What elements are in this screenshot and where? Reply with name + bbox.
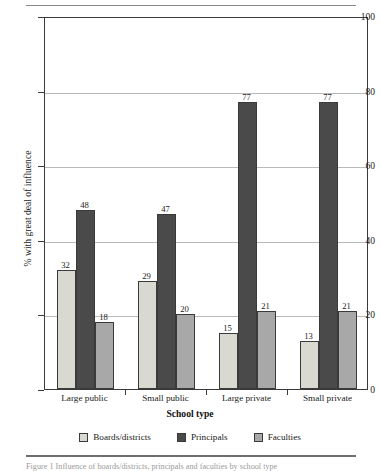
bar-value-label: 32 [61, 260, 70, 270]
x-axis-title: School type [0, 408, 380, 419]
legend-item[interactable]: Boards/districts [79, 432, 151, 442]
y-axis-tick-mark [38, 166, 44, 167]
bar-value-label: 29 [142, 271, 151, 281]
bar [257, 311, 276, 389]
y-axis-tick-mark [38, 390, 44, 391]
x-axis-category-label: Large private [222, 393, 271, 403]
bar-value-label: 20 [180, 304, 189, 314]
y-axis-tick-mark [38, 315, 44, 316]
bar-value-label: 18 [99, 312, 108, 322]
chart-plot-area [44, 17, 368, 390]
bar [76, 210, 95, 389]
y-axis-tick-label: 80 [341, 87, 375, 97]
bar-value-label: 48 [80, 200, 89, 210]
legend-swatch-icon [177, 433, 186, 442]
x-axis-category-label: Large public [61, 393, 108, 403]
figure-caption: Figure 1 Influence of boards/districts, … [26, 461, 366, 471]
legend-label: Faculties [268, 432, 301, 442]
bar-value-label: 13 [304, 331, 313, 341]
y-axis-tick-label: 60 [341, 161, 375, 171]
bar [238, 102, 257, 389]
bar [319, 102, 338, 389]
x-axis-tick-mark [287, 390, 288, 395]
y-axis-title: % with great deal of influence [22, 84, 33, 334]
bar [57, 270, 76, 389]
y-axis-tick-mark [38, 92, 44, 93]
chart-legend: Boards/districtsPrincipalsFaculties [0, 432, 380, 442]
x-axis-tick-mark [125, 390, 126, 395]
bar [338, 311, 357, 389]
bar-value-label: 15 [223, 323, 232, 333]
y-axis-tick-mark [38, 241, 44, 242]
legend-item[interactable]: Faculties [254, 432, 301, 442]
bar-value-label: 77 [323, 92, 332, 102]
bar [219, 333, 238, 389]
bar-value-label: 47 [161, 204, 170, 214]
legend-swatch-icon [254, 433, 263, 442]
legend-swatch-icon [79, 433, 88, 442]
bar-value-label: 77 [242, 92, 251, 102]
bar-value-label: 21 [261, 301, 270, 311]
bar [176, 314, 195, 389]
legend-label: Boards/districts [93, 432, 151, 442]
legend-item[interactable]: Principals [177, 432, 228, 442]
bar-value-label: 21 [342, 301, 351, 311]
bars-group [45, 18, 367, 389]
bar [138, 281, 157, 389]
x-axis-tick-mark [206, 390, 207, 395]
legend-label: Principals [191, 432, 228, 442]
y-axis-tick-label: 100 [341, 12, 375, 22]
y-axis-tick-label: 20 [341, 310, 375, 320]
top-divider-rule [26, 5, 356, 6]
y-axis-tick-label: 40 [341, 236, 375, 246]
bottom-divider-rule [26, 455, 356, 457]
bar [95, 322, 114, 389]
x-axis-category-label: Small private [303, 393, 352, 403]
y-axis-tick-mark [38, 17, 44, 18]
bar [300, 341, 319, 389]
bar [157, 214, 176, 389]
x-axis-category-label: Small public [142, 393, 189, 403]
